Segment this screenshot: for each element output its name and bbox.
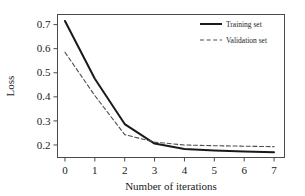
y-tick-label: 0.2 [37,139,51,151]
y-tick-label: 0.3 [37,115,51,127]
x-tick-label: 6 [241,164,247,176]
x-tick-label: 7 [271,164,277,176]
x-axis-tick-labels: 01234567 [62,164,277,176]
y-tick-label: 0.5 [37,66,51,78]
y-tick-label: 0.4 [37,90,51,102]
y-axis-title: Loss [4,76,16,97]
x-tick-label: 2 [122,164,128,176]
x-axis-ticks [65,158,274,162]
x-tick-label: 3 [152,164,158,176]
y-tick-label: 0.6 [37,42,51,54]
legend-label-training: Training set [226,20,263,29]
chart-legend: Training set Validation set [197,17,283,47]
chart-figure: 0.20.30.40.50.60.7 01234567 Number of it… [0,0,305,196]
x-tick-label: 4 [182,164,188,176]
y-tick-label: 0.7 [37,18,51,30]
legend-label-validation: Validation set [226,36,268,45]
y-axis-ticks [54,25,58,145]
loss-curve-chart: 0.20.30.40.50.60.7 01234567 Number of it… [0,0,305,196]
x-tick-label: 1 [92,164,98,176]
x-tick-label: 5 [212,164,218,176]
x-axis-title: Number of iterations [125,180,217,192]
series-line-validation-set [65,52,274,146]
y-axis-tick-labels: 0.20.30.40.50.60.7 [37,18,51,150]
x-tick-label: 0 [62,164,68,176]
